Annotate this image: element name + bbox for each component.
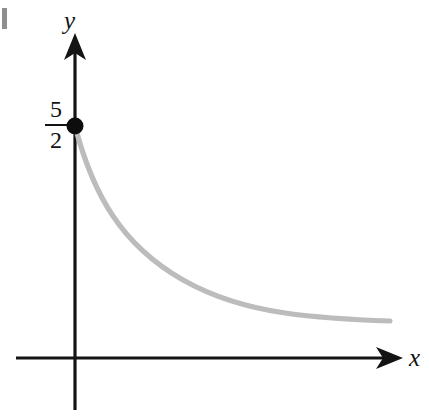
fraction-bar (45, 124, 67, 126)
fraction-numerator: 5 (40, 96, 72, 123)
graph-canvas (0, 0, 429, 418)
y-axis-label: y (64, 8, 75, 33)
y-intercept-fraction-label: 5 2 (40, 96, 72, 154)
function-curve (75, 126, 390, 321)
fraction-denominator: 2 (40, 127, 72, 154)
x-axis-label: x (409, 345, 420, 370)
figure-container: y x 5 2 (0, 0, 429, 418)
